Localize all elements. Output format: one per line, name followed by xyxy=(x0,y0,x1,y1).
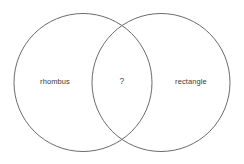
right-set-circle xyxy=(92,14,230,152)
venn-diagram: rhombus ? rectangle xyxy=(0,0,244,164)
left-set-circle xyxy=(14,14,152,152)
right-set-label: rectangle xyxy=(175,78,207,86)
intersection-label: ? xyxy=(120,77,125,86)
left-set-label: rhombus xyxy=(40,78,70,86)
